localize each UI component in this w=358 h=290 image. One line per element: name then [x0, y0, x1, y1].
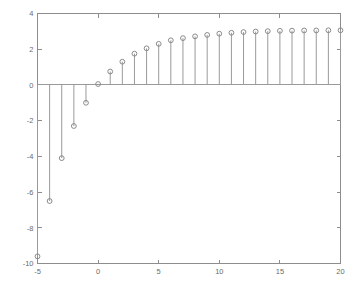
stem-plot: -505101520 420-2-4-6-8-10 — [0, 0, 358, 290]
y-tick-label: -4 — [27, 152, 34, 161]
y-tick-label: -8 — [27, 224, 34, 233]
figure-canvas: -505101520 420-2-4-6-8-10 — [0, 0, 358, 290]
y-tick-label: -2 — [27, 116, 34, 125]
y-tick-label: -10 — [23, 259, 34, 268]
x-tick-label: -5 — [34, 267, 41, 276]
y-tick-label: -6 — [27, 188, 34, 197]
x-tick-label: 5 — [157, 267, 161, 276]
y-tick-label: 0 — [29, 81, 33, 90]
x-tick-label: 20 — [336, 267, 344, 276]
y-tick-label: 2 — [29, 45, 33, 54]
x-tick-label: 15 — [276, 267, 284, 276]
y-tick-label: 4 — [29, 9, 33, 18]
x-tick-label: 10 — [215, 267, 223, 276]
x-tick-label: 0 — [96, 267, 100, 276]
